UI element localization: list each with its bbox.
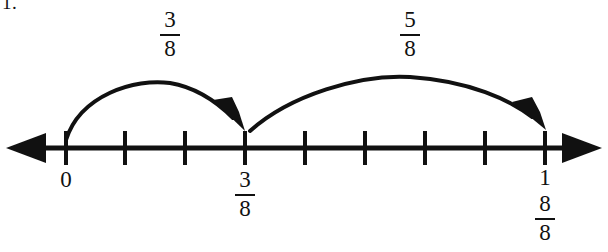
jump-arc-second-arrowhead [512, 97, 546, 130]
axis-tick-label-eight-eighths: 8 8 [535, 192, 555, 245]
jump-label-second-numerator: 5 [402, 8, 418, 32]
axis-tick-label-one: 1 [539, 166, 551, 189]
axis-tick-label-three-eighths: 3 8 [235, 168, 255, 221]
axis-left-arrowhead [6, 133, 46, 163]
jump-arc-first-arrowhead [213, 97, 245, 131]
jump-label-first-numerator: 3 [162, 8, 178, 32]
problem-number: 1. [2, 0, 17, 12]
jump-label-second: 5 8 [400, 8, 420, 61]
axis-tick-label-three-eighths-denominator: 8 [237, 197, 253, 221]
jump-label-first-denominator: 8 [162, 37, 178, 61]
axis-tick-label-three-eighths-numerator: 3 [237, 168, 253, 192]
number-line-graphic [0, 0, 608, 252]
number-line-figure: 1. 3 8 5 8 0 3 8 1 8 8 [0, 0, 608, 252]
jump-label-first: 3 8 [160, 8, 180, 61]
jump-label-second-denominator: 8 [402, 37, 418, 61]
axis-tick-label-eight-eighths-denominator: 8 [537, 221, 553, 245]
jump-arc-second [250, 77, 532, 131]
axis-tick-label-zero: 0 [60, 168, 72, 191]
axis-right-arrowhead [562, 133, 602, 163]
jump-arc-first [66, 82, 233, 140]
axis-tick-label-eight-eighths-numerator: 8 [537, 192, 553, 216]
